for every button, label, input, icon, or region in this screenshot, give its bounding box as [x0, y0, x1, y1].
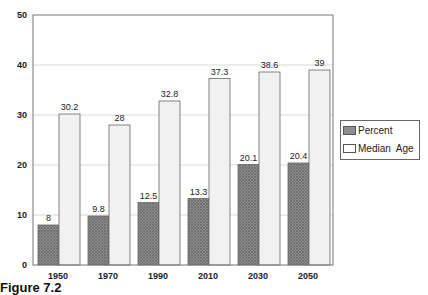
bar-percent: [238, 165, 259, 266]
bar-percent: [288, 163, 309, 265]
data-label: 20.1: [240, 153, 258, 163]
data-label: 38.6: [261, 60, 279, 70]
legend-label: Percent: [358, 125, 392, 136]
bar-percent: [188, 199, 209, 266]
data-label: 32.8: [161, 89, 179, 99]
bar-median-age: [259, 72, 280, 265]
y-tick-label: 40: [17, 60, 27, 70]
y-tick-label: 20: [17, 160, 27, 170]
figure-caption: Figure 7.2: [0, 280, 61, 295]
legend: Percent Median Age: [340, 120, 420, 160]
bar-median-age: [309, 70, 330, 265]
x-tick-label: 2030: [248, 271, 268, 281]
bar-percent: [88, 216, 109, 265]
data-label: 13.3: [190, 187, 208, 197]
bar-percent: [138, 203, 159, 266]
legend-label: Median Age: [358, 143, 414, 154]
data-label: 9.8: [92, 204, 105, 214]
legend-item-percent: Percent: [341, 121, 419, 139]
bar-median-age: [59, 114, 80, 265]
bar-median-age: [109, 125, 130, 265]
data-label: 39: [314, 58, 324, 68]
data-label: 20.4: [290, 151, 308, 161]
legend-item-median-age: Median Age: [341, 139, 419, 157]
bar-percent: [38, 225, 59, 265]
x-tick-label: 2010: [198, 271, 218, 281]
y-tick-label: 30: [17, 110, 27, 120]
y-tick-label: 0: [22, 260, 27, 270]
x-tick-label: 2050: [298, 271, 318, 281]
data-label: 30.2: [61, 102, 79, 112]
data-label: 8: [46, 213, 51, 223]
percent-swatch-icon: [343, 126, 356, 135]
median-age-swatch-icon: [343, 144, 356, 153]
bar-median-age: [159, 101, 180, 265]
y-tick-label: 50: [17, 10, 27, 20]
bar-median-age: [209, 79, 230, 266]
data-label: 28: [114, 113, 124, 123]
data-label: 37.3: [211, 67, 229, 77]
data-label: 12.5: [140, 191, 158, 201]
x-tick-label: 1970: [98, 271, 118, 281]
y-tick-label: 10: [17, 210, 27, 220]
x-tick-label: 1990: [148, 271, 168, 281]
